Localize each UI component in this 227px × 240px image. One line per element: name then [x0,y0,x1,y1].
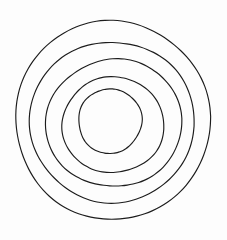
concentric-circles-figure [0,0,227,240]
figure-background [0,0,227,240]
concentric-circles-canvas [0,0,227,240]
